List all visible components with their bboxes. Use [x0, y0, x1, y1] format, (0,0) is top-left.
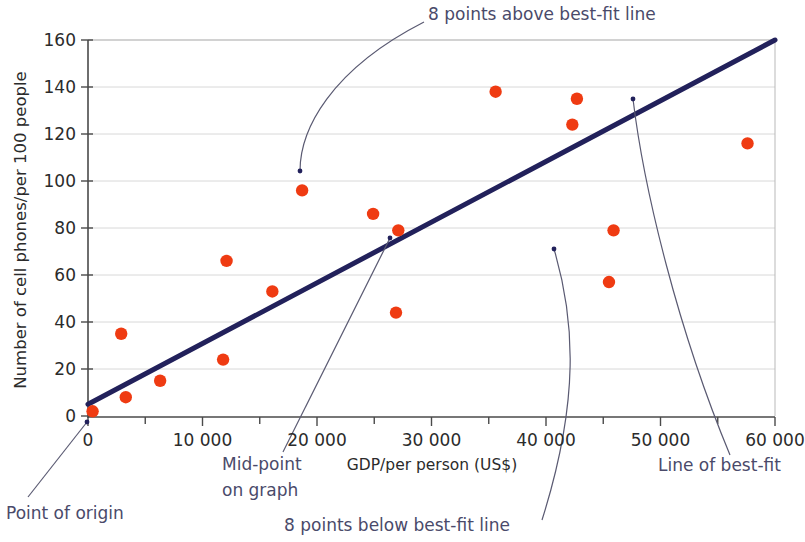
x-tick-label-30000: 30 000: [402, 430, 461, 450]
y-tick-label-120: 120: [44, 124, 76, 144]
y-tick-label-40: 40: [54, 312, 76, 332]
annotation-point-of-origin: Point of origin: [6, 503, 124, 523]
y-tick-labels: 020406080100120140160: [44, 30, 76, 426]
leader-dot-bestfit: [631, 97, 636, 102]
data-points: [86, 86, 753, 418]
y-tick-label-20: 20: [54, 359, 76, 379]
data-point-16: [741, 137, 753, 149]
x-tick-label-10000: 10 000: [173, 430, 232, 450]
x-tick-marks: [88, 417, 775, 426]
x-tick-labels: 010 00020 00030 00040 00050 00060 000: [83, 430, 805, 450]
annotation-below-best-fit: 8 points below best-fit line: [284, 515, 510, 535]
data-point-9: [390, 306, 402, 318]
x-tick-label-20000: 20 000: [287, 430, 346, 450]
y-tick-label-80: 80: [54, 218, 76, 238]
x-tick-label-40000: 40 000: [516, 430, 575, 450]
leader-dot-above: [298, 169, 303, 174]
leader-dot-midpoint: [388, 236, 393, 241]
data-point-13: [571, 93, 583, 105]
x-tick-label-50000: 50 000: [631, 430, 690, 450]
chart-canvas: 020406080100120140160 010 00020 00030 00…: [0, 0, 805, 542]
data-point-11: [489, 86, 501, 98]
data-point-7: [296, 184, 308, 196]
data-point-5: [220, 255, 232, 267]
annotation-midpoint-line1: Mid-point: [222, 454, 302, 474]
y-tick-label-0: 0: [65, 406, 76, 426]
annotation-midpoint-line2: on graph: [222, 480, 298, 500]
data-point-0: [86, 405, 98, 417]
annotation-above-best-fit: 8 points above best-fit line: [428, 4, 656, 24]
data-point-8: [367, 208, 379, 220]
x-tick-label-0: 0: [83, 430, 94, 450]
y-tick-marks: [81, 40, 93, 416]
data-point-14: [603, 276, 615, 288]
chart-page: 020406080100120140160 010 00020 00030 00…: [0, 0, 805, 542]
y-tick-label-160: 160: [44, 30, 76, 50]
y-axis-title: Number of cell phones/per 100 people: [11, 71, 30, 388]
y-tick-label-60: 60: [54, 265, 76, 285]
data-point-1: [115, 328, 127, 340]
leader-point-of-origin: [28, 422, 87, 497]
data-point-10: [392, 224, 404, 236]
data-point-12: [566, 118, 578, 130]
data-point-3: [154, 375, 166, 387]
data-point-4: [217, 353, 229, 365]
gridlines: [88, 40, 775, 369]
leader-dot-below: [552, 247, 557, 252]
y-tick-label-140: 140: [44, 77, 76, 97]
annotation-leaders: [28, 22, 730, 520]
line-of-best-fit: [88, 40, 775, 404]
annotation-line-of-best-fit: Line of best-fit: [658, 455, 781, 475]
y-tick-label-100: 100: [44, 171, 76, 191]
leader-below-best-fit: [542, 249, 570, 520]
data-point-2: [120, 391, 132, 403]
data-point-15: [607, 224, 619, 236]
x-tick-label-60000: 60 000: [745, 430, 804, 450]
leader-line-of-best-fit: [633, 99, 730, 455]
data-point-6: [266, 285, 278, 297]
leader-above-best-fit: [300, 22, 424, 171]
x-axis-title: GDP/per person (US$): [347, 456, 517, 474]
leader-dot-origin: [85, 420, 90, 425]
